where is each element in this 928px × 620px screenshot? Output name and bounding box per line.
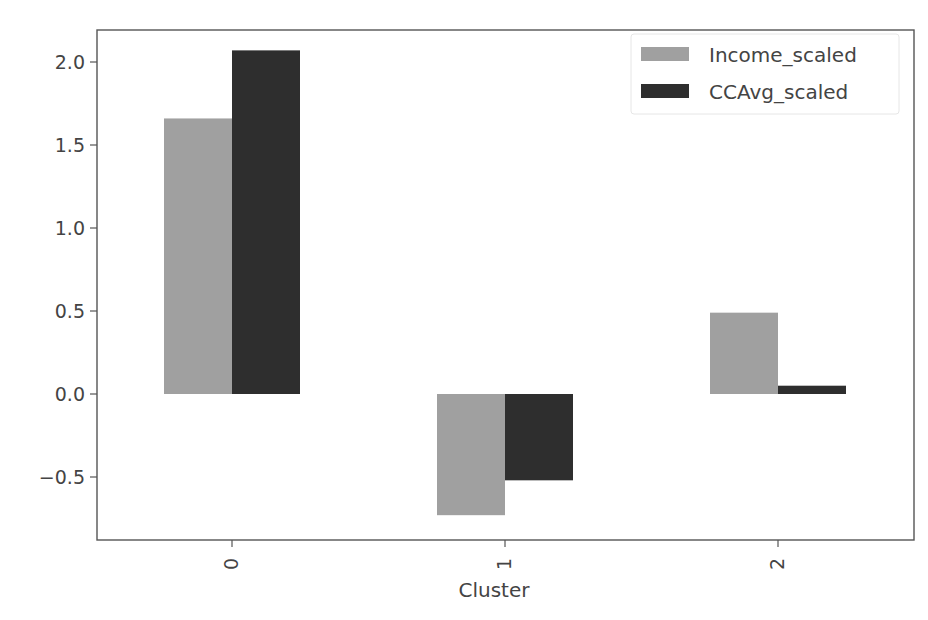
y-axis: 2.0 1.5 1.0 0.5 0.0 −0.5 xyxy=(39,51,97,488)
y-tick: 1.5 xyxy=(55,134,97,156)
y-tick: 0.0 xyxy=(55,383,97,405)
bar-chart: 2.0 1.5 1.0 0.5 0.0 −0.5 0 1 xyxy=(0,0,928,620)
bar-ccavg-cluster-2 xyxy=(778,386,846,394)
svg-text:−0.5: −0.5 xyxy=(39,466,85,488)
y-tick: −0.5 xyxy=(39,466,97,488)
x-tick: 1 xyxy=(493,540,515,570)
svg-text:1: 1 xyxy=(493,558,515,570)
svg-text:0.5: 0.5 xyxy=(55,300,85,322)
x-axis: 0 1 2 Cluster xyxy=(220,540,788,602)
legend-swatch-income xyxy=(641,47,689,61)
legend: Income_scaled CCAvg_scaled xyxy=(631,34,899,114)
bar-income-cluster-0 xyxy=(164,118,232,394)
x-tick: 2 xyxy=(766,540,788,570)
bar-income-cluster-1 xyxy=(437,394,505,515)
x-axis-label: Cluster xyxy=(459,578,531,602)
svg-text:1.0: 1.0 xyxy=(55,217,85,239)
svg-text:1.5: 1.5 xyxy=(55,134,85,156)
legend-label-income: Income_scaled xyxy=(709,43,857,67)
svg-text:0: 0 xyxy=(220,558,242,570)
bar-ccavg-cluster-0 xyxy=(232,50,300,394)
svg-text:2.0: 2.0 xyxy=(55,51,85,73)
y-tick: 2.0 xyxy=(55,51,97,73)
bar-ccavg-cluster-1 xyxy=(505,394,573,480)
legend-label-ccavg: CCAvg_scaled xyxy=(709,80,848,104)
x-tick: 0 xyxy=(220,540,242,570)
svg-text:0.0: 0.0 xyxy=(55,383,85,405)
y-tick: 1.0 xyxy=(55,217,97,239)
bar-income-cluster-2 xyxy=(710,313,778,394)
y-tick: 0.5 xyxy=(55,300,97,322)
svg-text:2: 2 xyxy=(766,558,788,570)
legend-swatch-ccavg xyxy=(641,84,689,98)
